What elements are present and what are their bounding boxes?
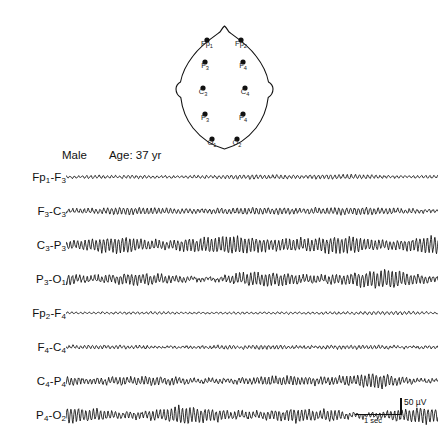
trace-row: C3-P3	[0, 228, 448, 262]
electrode-labels: Fp1Fp2F3F4C3C4P3P4O1O2	[199, 39, 250, 148]
electrode-label-c3: C3	[199, 87, 208, 97]
electrode-label-fp1: Fp1	[201, 39, 213, 49]
electrode-label-f3: F3	[201, 61, 209, 71]
trace-label-fp1-f3: Fp1-F3	[32, 171, 66, 183]
trace-waveform-fp2-f4	[66, 296, 438, 330]
calibration-time-label: 1 sec	[364, 416, 382, 425]
trace-label-f3-c3: F3-C3	[37, 205, 66, 217]
trace-waveform-fp1-f3	[66, 160, 438, 194]
trace-label-c3-p3: C3-P3	[37, 239, 66, 251]
trace-label-p3-o1: P3-O1	[36, 273, 66, 285]
electrode-label-fp2: Fp2	[235, 39, 247, 49]
electrode-label-p4: P4	[239, 113, 247, 123]
eeg-trace-panel: Fp1-F3F3-C3C3-P3P3-O1Fp2-F4F4-C4C4-P4P4-…	[0, 160, 448, 405]
head-map: Fp1Fp2F3F4C3C4P3P4O1O2	[160, 18, 290, 158]
electrode-label-p3: P3	[201, 113, 209, 123]
eeg-figure: Fp1Fp2F3F4C3C4P3P4O1O2 Male Age: 37 yr F…	[0, 0, 448, 440]
calibration-marker: 50 µV 1 sec	[350, 396, 446, 430]
trace-waveform-p3-o1	[66, 262, 438, 296]
trace-row: Fp2-F4	[0, 296, 448, 330]
electrode-label-f4: F4	[239, 61, 247, 71]
trace-row: F3-C3	[0, 194, 448, 228]
trace-waveform-c3-p3	[66, 228, 438, 262]
trace-label-fp2-f4: Fp2-F4	[32, 307, 66, 319]
calibration-horizontal-bar	[355, 414, 401, 416]
trace-waveform-c4-p4	[66, 364, 438, 398]
trace-row: C4-P4	[0, 364, 448, 398]
trace-waveform-f3-c3	[66, 194, 438, 228]
trace-row: P3-O1	[0, 262, 448, 296]
calibration-amplitude-label: 50 µV	[404, 397, 426, 407]
trace-waveform-f4-c4	[66, 330, 438, 364]
calibration-vertical-bar	[400, 398, 402, 415]
electrode-layer: Fp1Fp2F3F4C3C4P3P4O1O2	[160, 18, 290, 158]
trace-row: Fp1-F3	[0, 160, 448, 194]
trace-label-p4-o2: P4-O2	[36, 409, 66, 421]
trace-label-c4-p4: C4-P4	[37, 375, 66, 387]
electrode-label-c4: C4	[241, 87, 250, 97]
trace-label-f4-c4: F4-C4	[37, 341, 66, 353]
trace-row: F4-C4	[0, 330, 448, 364]
